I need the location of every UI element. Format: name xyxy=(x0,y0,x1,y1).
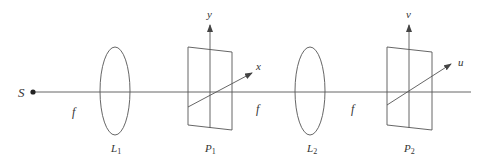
lens-l1 xyxy=(100,47,130,135)
p2-u-label: u xyxy=(458,56,464,68)
plane-p2 xyxy=(387,47,432,130)
p2-v-label: v xyxy=(406,8,411,20)
lens-l1-label: L1 xyxy=(110,142,121,156)
p2-u-axis xyxy=(387,64,451,105)
plane-p2-label: P2 xyxy=(403,142,415,156)
optical-diagram: S f f f L1 y x P1 L2 v u P2 xyxy=(0,0,487,165)
p1-x-axis xyxy=(188,73,252,107)
p1-x-label: x xyxy=(255,60,261,72)
source-label: S xyxy=(18,85,25,100)
focal-label-2: f xyxy=(256,102,261,116)
plane-p1-label: P1 xyxy=(204,142,216,156)
focal-label-3: f xyxy=(351,102,356,116)
p1-y-label: y xyxy=(206,8,212,20)
lens-l2-label: L2 xyxy=(306,142,317,156)
focal-label-1: f xyxy=(72,105,77,119)
lens-l2 xyxy=(295,47,325,135)
source-point xyxy=(30,89,35,94)
